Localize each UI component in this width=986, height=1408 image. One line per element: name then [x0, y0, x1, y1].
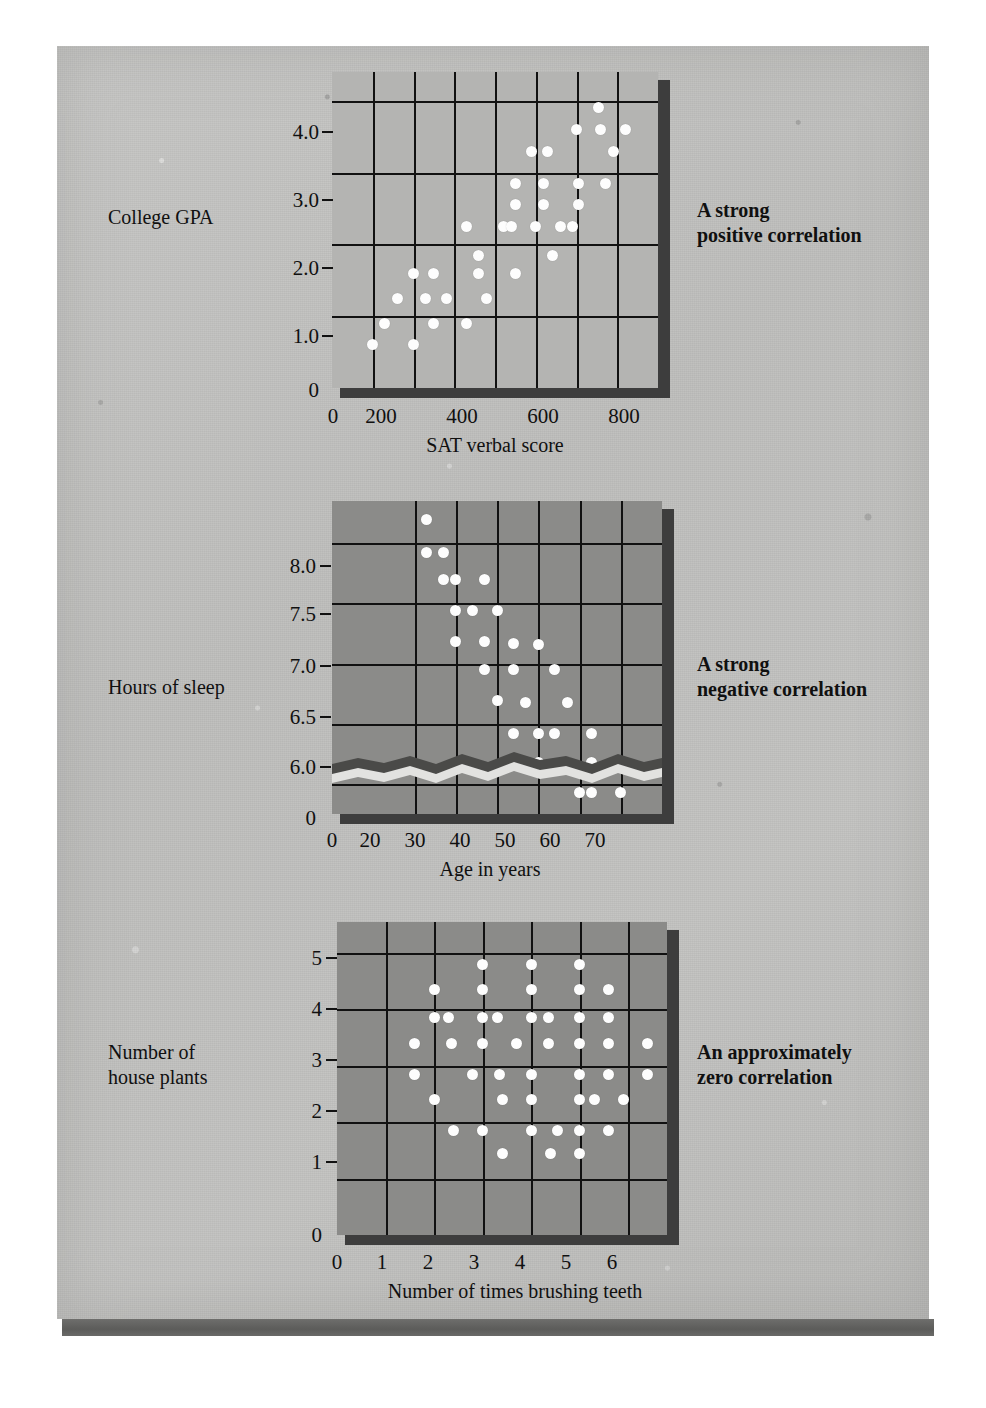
gridline-horizontal	[337, 1122, 667, 1124]
data-point	[477, 984, 488, 995]
data-point	[586, 728, 597, 739]
data-point	[450, 605, 461, 616]
xtick-zero-1: 1	[360, 1252, 404, 1273]
xtick-negative-40: 40	[438, 830, 482, 851]
data-point	[448, 1125, 459, 1136]
plot-area-zero	[337, 922, 679, 1240]
data-point	[497, 1148, 508, 1159]
data-point	[450, 574, 461, 585]
data-point	[574, 1012, 585, 1023]
data-point	[477, 1125, 488, 1136]
data-point	[603, 1125, 614, 1136]
gridline-horizontal	[337, 1179, 667, 1181]
data-point	[603, 984, 614, 995]
data-point	[573, 178, 584, 189]
xtick-zero-2: 2	[406, 1252, 450, 1273]
data-point	[508, 638, 519, 649]
data-point	[409, 1038, 420, 1049]
data-point	[589, 1094, 600, 1105]
gridline-horizontal	[332, 724, 662, 726]
ytick-positive-4: 4.0	[255, 122, 319, 143]
data-point	[477, 1038, 488, 1049]
data-point	[429, 1012, 440, 1023]
xaxis-title-positive: SAT verbal score	[340, 434, 650, 457]
panel-zero-left-label-line1: Number of	[108, 1041, 195, 1063]
data-point	[530, 221, 541, 232]
data-point	[379, 318, 390, 329]
data-point	[494, 1069, 505, 1080]
panel-zero-right-label-line1: An approximately	[697, 1041, 852, 1063]
panel-zero-right-label: An approximately zero correlation	[697, 1040, 947, 1090]
ytick-mark-zero-4	[326, 1008, 337, 1010]
data-point	[600, 178, 611, 189]
data-point	[479, 574, 490, 585]
gridline-horizontal	[332, 543, 662, 545]
data-point	[473, 250, 484, 261]
data-point	[549, 664, 560, 675]
panel-positive-right-label-line2: positive correlation	[697, 224, 862, 246]
data-point	[538, 178, 549, 189]
panel-positive-right-label-line1: A strong	[697, 199, 769, 221]
data-point	[467, 1069, 478, 1080]
ytick-mark-zero-5	[326, 957, 337, 959]
data-point	[429, 984, 440, 995]
data-point	[545, 1148, 556, 1159]
data-point	[443, 1012, 454, 1023]
data-point	[555, 221, 566, 232]
data-point	[429, 1094, 440, 1105]
xtick-negative-20: 20	[348, 830, 392, 851]
data-point	[367, 339, 378, 350]
data-point	[552, 1125, 563, 1136]
gridline-horizontal	[337, 1009, 667, 1011]
data-point	[571, 124, 582, 135]
data-point	[461, 318, 472, 329]
data-point	[492, 1012, 503, 1023]
plot-shadow-right	[667, 930, 679, 1242]
gridline-horizontal	[332, 244, 658, 246]
xtick-positive-600: 600	[513, 406, 573, 427]
ytick-zero-1: 1	[268, 1152, 322, 1173]
ytick-negative-0: 0	[248, 808, 316, 829]
xaxis-title-zero: Number of times brushing teeth	[320, 1280, 710, 1303]
data-point	[574, 984, 585, 995]
plot-shadow-right	[658, 80, 670, 398]
data-point	[526, 1069, 537, 1080]
gridline-horizontal	[332, 664, 662, 666]
data-point	[603, 1012, 614, 1023]
gridline-vertical	[628, 922, 630, 1235]
data-point	[481, 293, 492, 304]
data-point	[392, 293, 403, 304]
data-point	[533, 639, 544, 650]
xtick-positive-800: 800	[594, 406, 654, 427]
data-point	[642, 1069, 653, 1080]
data-point	[421, 547, 432, 558]
gridline-vertical	[386, 922, 388, 1235]
data-point	[526, 1012, 537, 1023]
xtick-negative-70: 70	[573, 830, 617, 851]
data-point	[492, 605, 503, 616]
data-point	[479, 664, 490, 675]
gridline-vertical	[495, 72, 497, 388]
plot-area-negative	[332, 501, 674, 819]
data-point	[526, 959, 537, 970]
ytick-mark-negative-65	[320, 716, 331, 718]
data-point	[510, 178, 521, 189]
data-point	[508, 664, 519, 675]
xtick-zero-0: 0	[315, 1252, 359, 1273]
panel-zero-right-label-line2: zero correlation	[697, 1066, 832, 1088]
gridline-vertical	[577, 72, 579, 388]
figure-page: College GPA A strong positive correlatio…	[0, 0, 986, 1408]
plot-canvas-zero	[337, 922, 667, 1235]
ytick-mark-zero-3	[326, 1059, 337, 1061]
ytick-mark-negative-7	[320, 665, 331, 667]
data-point	[595, 124, 606, 135]
ytick-negative-6: 6.0	[248, 757, 316, 778]
data-point	[543, 1012, 554, 1023]
data-point	[526, 984, 537, 995]
data-point	[408, 339, 419, 350]
panel-negative-right-label: A strong negative correlation	[697, 652, 937, 702]
plate-bottom-bevel	[62, 1319, 934, 1336]
gridline-horizontal	[337, 953, 667, 955]
gridline-horizontal	[337, 1066, 667, 1068]
data-point	[477, 1012, 488, 1023]
